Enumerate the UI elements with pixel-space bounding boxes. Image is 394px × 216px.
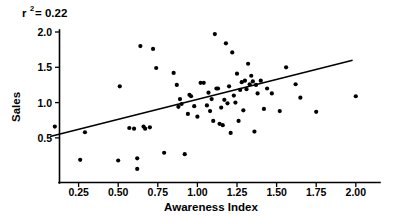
data-point [143, 127, 147, 131]
data-point [259, 79, 263, 83]
data-point [202, 81, 206, 85]
data-point [206, 91, 210, 95]
data-point [229, 131, 233, 135]
data-point [53, 125, 57, 129]
data-point [192, 104, 196, 108]
data-points-layer [53, 32, 358, 171]
data-point [225, 101, 229, 105]
data-point [246, 62, 250, 66]
data-point [151, 47, 155, 51]
data-point [78, 158, 82, 162]
data-point [244, 87, 248, 91]
data-point [219, 105, 223, 109]
data-point [314, 110, 318, 114]
data-point [248, 82, 252, 86]
x-axis-ticks: 0.25 0.50 0.75 1.00 1.25 1.50 1.75 2.00 [68, 183, 366, 198]
y-axis-title: Sales [10, 92, 22, 122]
data-point [189, 94, 193, 98]
data-point [183, 152, 187, 156]
data-point [233, 101, 237, 105]
data-point [221, 123, 225, 127]
x-tick-label-1.50: 1.50 [266, 186, 287, 198]
data-point [255, 91, 259, 95]
regression-line [50, 60, 353, 136]
y-tick-label-2.0: 2.0 [37, 26, 52, 38]
x-tick-label-1.25: 1.25 [227, 186, 248, 198]
data-point [249, 74, 253, 78]
data-point [118, 84, 122, 88]
data-point [216, 86, 220, 90]
data-point [284, 65, 288, 69]
data-point [83, 130, 87, 134]
data-point [208, 109, 212, 113]
x-tick-label-2.00: 2.00 [346, 186, 367, 198]
data-point [179, 102, 183, 106]
data-point [172, 71, 176, 75]
data-point [154, 66, 158, 70]
data-point [254, 83, 258, 87]
data-point [298, 96, 302, 100]
data-point [213, 32, 217, 36]
data-point [135, 167, 139, 171]
data-point [162, 151, 166, 155]
r-squared-annotation-exponent: 2 [30, 4, 34, 13]
x-tick-label-1.00: 1.00 [187, 186, 208, 198]
data-point [278, 109, 282, 113]
data-point [294, 82, 298, 86]
data-point [127, 126, 131, 130]
data-point [195, 115, 199, 119]
data-point [235, 72, 239, 76]
y-tick-label-1.5: 1.5 [37, 61, 52, 73]
data-point [178, 97, 182, 101]
data-point [252, 129, 256, 133]
data-point [132, 127, 136, 131]
data-point [270, 91, 274, 95]
data-point [265, 86, 269, 90]
data-point [175, 83, 179, 87]
x-tick-label-0.25: 0.25 [68, 186, 89, 198]
data-point [176, 105, 180, 109]
data-point [116, 158, 120, 162]
data-point [251, 79, 255, 83]
data-point [262, 107, 266, 111]
data-point [227, 84, 231, 88]
scatter-plot-figure: r 2 = 0.22 2.0 1.5 1.0 0.5 [0, 0, 394, 216]
r-squared-annotation-value: = 0.22 [35, 7, 67, 19]
x-tick-label-1.75: 1.75 [306, 186, 327, 198]
x-tick-label-0.75: 0.75 [148, 186, 169, 198]
data-point [186, 112, 190, 116]
data-point [232, 93, 236, 97]
x-axis-title: Awareness Index [164, 201, 258, 213]
annotation-layer: r 2 = 0.22 [22, 4, 67, 19]
data-point [222, 98, 226, 102]
y-tick-label-0.5: 0.5 [37, 132, 52, 144]
y-tick-label-1.0: 1.0 [37, 97, 52, 109]
data-point [138, 44, 142, 48]
chart-canvas: r 2 = 0.22 2.0 1.5 1.0 0.5 [0, 0, 394, 216]
x-tick-label-0.50: 0.50 [108, 186, 129, 198]
data-point [205, 103, 209, 107]
data-point [241, 108, 245, 112]
data-point [210, 97, 214, 101]
data-point [230, 50, 234, 54]
data-point [236, 119, 240, 123]
data-point [211, 119, 215, 123]
regression-line-layer [50, 60, 353, 136]
data-point [148, 125, 152, 129]
data-point [135, 156, 139, 160]
data-point [354, 94, 358, 98]
data-point [243, 79, 247, 83]
data-point [238, 88, 242, 92]
r-squared-annotation-base: r [22, 7, 27, 19]
axis-titles-layer: Awareness Index Sales [10, 92, 258, 213]
data-point [224, 41, 228, 45]
